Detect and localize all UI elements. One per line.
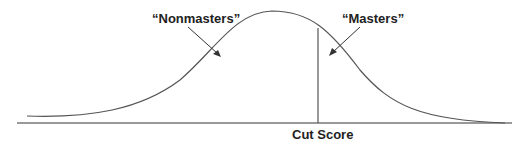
nonmasters-label: “Nonmasters”	[152, 11, 240, 26]
distribution-diagram	[0, 0, 531, 155]
masters-arrow	[329, 27, 360, 56]
normal-curve	[27, 11, 505, 123]
cut-score-label: Cut Score	[292, 127, 353, 142]
nonmasters-arrow	[188, 27, 221, 57]
masters-label: “Masters”	[342, 11, 404, 26]
